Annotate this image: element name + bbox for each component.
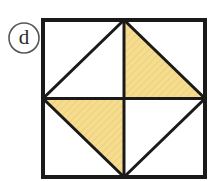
figure-container: d (0, 0, 212, 181)
geometry-figure: d (0, 0, 212, 181)
figure-label-letter: d (19, 25, 30, 49)
